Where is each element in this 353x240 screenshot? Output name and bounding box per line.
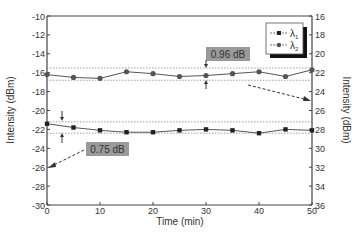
data-point — [97, 76, 102, 81]
data-point — [256, 69, 261, 74]
y2-tick-label: 26 — [315, 106, 325, 116]
data-point — [124, 130, 128, 134]
y-tick-label: -30 — [32, 201, 45, 211]
y-tick-label: -14 — [32, 49, 45, 59]
y2-tick-label: 20 — [315, 49, 325, 59]
data-point — [71, 75, 76, 80]
data-point — [230, 128, 234, 132]
data-point — [151, 130, 155, 134]
y-tick-label: -18 — [32, 87, 45, 97]
dashed-arrow-left — [52, 150, 84, 166]
y-tick-label: -26 — [32, 163, 45, 173]
y2-tick-label: 22 — [315, 68, 325, 78]
data-point — [204, 127, 208, 131]
data-point — [98, 128, 102, 132]
y-tick-label: -12 — [32, 30, 45, 40]
y2-tick-label: 16 — [315, 12, 325, 22]
y2-tick-label: 30 — [315, 144, 325, 154]
chart: -10-12-14-16-18-20-22-24-26-28-301618202… — [0, 0, 353, 240]
y2-tick-label: 28 — [315, 125, 325, 135]
y2-tick-label: 34 — [315, 182, 325, 192]
arrowhead-icon — [48, 162, 56, 168]
data-point — [203, 73, 208, 78]
y-tick-label: -28 — [32, 182, 45, 192]
dashed-arrow-right — [248, 85, 308, 100]
down-arrow-icon — [60, 117, 64, 121]
y-tick-label: -16 — [32, 68, 45, 78]
data-point — [45, 122, 49, 126]
y2-tick-label: 24 — [315, 87, 325, 97]
x-tick-label: 30 — [201, 206, 211, 216]
x-tick-label: 50 — [307, 206, 317, 216]
up-arrow-icon — [60, 133, 64, 137]
down-arrow-icon — [204, 64, 208, 68]
x-tick-label: 40 — [254, 206, 264, 216]
annotations: 0.96 dB 0.75 dB — [48, 47, 311, 168]
data-point — [124, 69, 129, 74]
y-axis-label: Intensity (dBm) — [5, 76, 16, 143]
data-point — [44, 72, 49, 77]
x-tick-label: 0 — [44, 206, 49, 216]
y2-axis-label: Intensity (dBm) — [341, 76, 352, 143]
data-point — [230, 71, 235, 76]
data-point — [283, 74, 288, 79]
y-tick-label: -10 — [32, 12, 45, 22]
y-tick-label: -20 — [32, 106, 45, 116]
data-point — [150, 71, 155, 76]
x-axis-label: Time (min) — [156, 216, 203, 227]
square-marker-icon — [277, 31, 281, 35]
arrowhead-icon — [303, 96, 311, 101]
data-point — [257, 131, 261, 135]
data-point — [71, 125, 75, 129]
series-lines — [44, 67, 314, 135]
x-tick-label: 20 — [148, 206, 158, 216]
annotation-label-0.96: 0.96 dB — [211, 49, 246, 60]
data-point — [177, 74, 182, 79]
x-tick-label: 10 — [95, 206, 105, 216]
data-point — [283, 127, 287, 131]
annotation-label-0.75: 0.75 dB — [90, 144, 125, 155]
data-point — [177, 128, 181, 132]
y2-tick-label: 32 — [315, 163, 325, 173]
data-point — [309, 67, 314, 72]
circle-marker-icon — [277, 43, 281, 47]
data-point — [310, 128, 314, 132]
y-tick-label: -24 — [32, 144, 45, 154]
legend: λ1 λ2 — [266, 23, 307, 58]
y2-tick-label: 18 — [315, 30, 325, 40]
y-tick-label: -22 — [32, 125, 45, 135]
